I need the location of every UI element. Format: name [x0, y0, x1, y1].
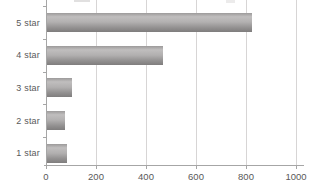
bar-2-star: [47, 111, 65, 130]
x-tick-label: 800: [226, 171, 266, 182]
x-tick-label: 200: [76, 171, 116, 182]
x-tick-label: 1000: [276, 171, 311, 182]
y-axis-tick: [43, 137, 46, 138]
y-axis-tick: [43, 104, 46, 105]
y-axis-line: [46, 0, 47, 169]
x-tick-label: 0: [26, 171, 66, 182]
cutoff-title-fragment: [74, 0, 90, 2]
bar-4-star: [47, 46, 163, 65]
bar-3-star: [47, 78, 72, 97]
category-label: 5 star: [0, 6, 40, 39]
bar-1-star: [47, 144, 67, 163]
category-label: 1 star: [0, 137, 40, 170]
horizontal-bar-chart: 5 star4 star3 star2 star1 star 020040060…: [0, 0, 311, 194]
category-label: 3 star: [0, 72, 40, 105]
y-axis-tick: [43, 39, 46, 40]
category-label: 2 star: [0, 104, 40, 137]
category-label: 4 star: [0, 39, 40, 72]
x-tick-label: 600: [176, 171, 216, 182]
y-axis-tick: [43, 72, 46, 73]
x-axis-line: [44, 165, 304, 166]
gridline: [296, 0, 297, 165]
cutoff-title-fragment: [226, 0, 235, 3]
bar-5-star: [47, 13, 252, 32]
x-tick-label: 400: [126, 171, 166, 182]
y-axis-tick: [43, 6, 46, 7]
